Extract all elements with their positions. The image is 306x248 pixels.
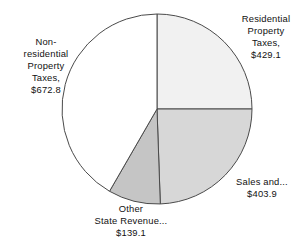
slice-label-sales-and: Sales and... $403.9 — [222, 176, 302, 200]
slice-label-non-residential-property-taxes: Non- residential Property Taxes, $672.8 — [7, 36, 85, 96]
pie-chart: Residential Property Taxes, $429.1 Non- … — [0, 0, 306, 248]
slice-label-other-state-revenue: Other State Revenue... $139.1 — [78, 203, 184, 239]
slice-label-residential-property-taxes: Residential Property Taxes, $429.1 — [228, 13, 304, 61]
